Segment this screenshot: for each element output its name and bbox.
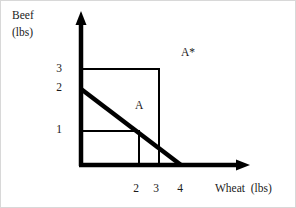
y-axis-arrowhead-icon <box>76 11 87 25</box>
figure-canvas: Beef (lbs) 3 2 1 2 3 4 Wheat (lbs) A* A <box>0 0 296 208</box>
x-axis-tick-4: 4 <box>174 183 186 195</box>
x-axis-tick-2: 2 <box>130 183 142 195</box>
bundle-a-label: A <box>135 100 143 112</box>
x-axis-tick-3: 3 <box>150 183 162 195</box>
bundle-a-rectangle <box>81 131 139 165</box>
y-axis-tick-2: 2 <box>53 82 65 94</box>
y-axis-tick-1: 1 <box>53 124 65 136</box>
bundle-a-star-label: A* <box>181 47 195 59</box>
economics-budget-diagram <box>1 1 296 208</box>
budget-constraint-line <box>81 89 181 165</box>
x-axis-arrowhead-icon <box>236 160 250 171</box>
y-axis-tick-3: 3 <box>53 63 65 75</box>
y-axis-units: (lbs) <box>12 27 33 39</box>
y-axis-title: Beef <box>12 10 34 22</box>
x-axis-title: Wheat (lbs) <box>215 183 272 195</box>
